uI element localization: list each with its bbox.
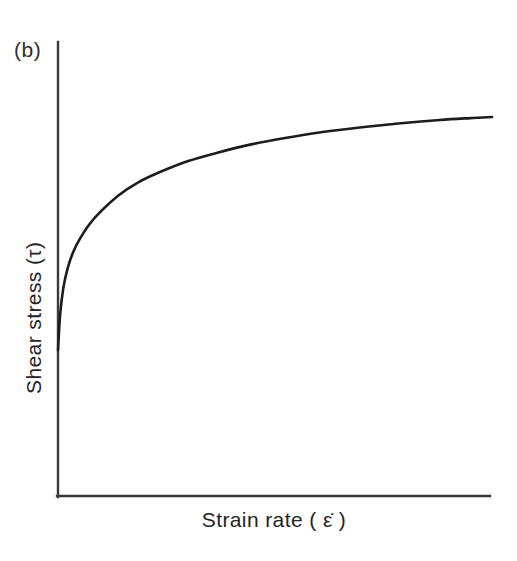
x-axis-label: Strain rate ( ε̇ ) [57,508,491,532]
figure-container: (b) Shear stress (τ) Strain rate ( ε̇ ) [0,0,517,561]
panel-label: (b) [14,38,41,62]
y-axis-label: Shear stress (τ) [22,94,46,394]
flow-curve-path [58,117,492,350]
plot-area [0,0,517,561]
